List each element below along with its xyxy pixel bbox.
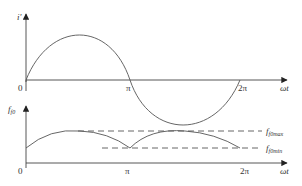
bottom-origin-label: 0: [18, 166, 23, 176]
bottom-x-label: ωt: [280, 166, 289, 176]
top-tick-pi: π: [126, 83, 131, 93]
top-plot: i' 0 π 2π ωt: [17, 12, 289, 125]
fmax-label: ff0max: [266, 126, 284, 137]
bottom-y-label: ff0: [8, 104, 15, 115]
frequency-curve: [26, 131, 240, 148]
top-origin-label: 0: [18, 83, 23, 93]
bottom-plot: ff0 ff0max ff0min 0 π 2π ωt: [8, 104, 289, 176]
fmin-label: ff0min: [266, 143, 282, 154]
bottom-tick-2pi: 2π: [240, 166, 250, 176]
waveform-diagram: i' 0 π 2π ωt ff0 ff0max ff0min 0 π 2π ωt: [0, 0, 302, 186]
top-y-label: i': [17, 12, 23, 22]
top-x-label: ωt: [280, 83, 289, 93]
bottom-tick-pi: π: [125, 166, 130, 176]
top-tick-2pi: 2π: [238, 83, 248, 93]
